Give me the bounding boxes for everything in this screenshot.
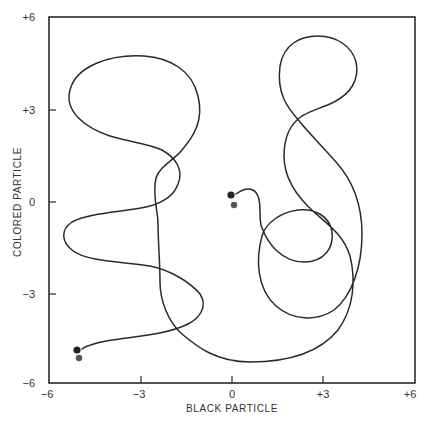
- chart-canvas: +6 +3 0 −3 −6 −6 −3 0 +3 +6 BLACK PARTIC…: [0, 0, 430, 424]
- y-label-minus3: −3: [22, 288, 35, 300]
- x-axis-ticks: [141, 376, 323, 383]
- y-label-minus6: −6: [22, 377, 35, 389]
- y-label-0: 0: [29, 196, 35, 208]
- x-label-minus6: −6: [41, 388, 54, 400]
- end-colored-particle-marker: [76, 355, 82, 361]
- start-black-particle-marker: [227, 191, 234, 198]
- x-label-plus3: +3: [317, 388, 330, 400]
- x-axis-title: BLACK PARTICLE: [186, 403, 278, 414]
- start-colored-particle-marker: [231, 202, 237, 208]
- end-black-particle-marker: [73, 346, 80, 353]
- x-label-plus6: +6: [404, 388, 417, 400]
- y-axis-ticks: [49, 110, 56, 294]
- trajectory-curve: [64, 36, 362, 362]
- x-label-0: 0: [229, 388, 235, 400]
- y-label-plus6: +6: [22, 11, 35, 23]
- y-label-plus3: +3: [22, 104, 35, 116]
- x-label-minus3: −3: [133, 388, 146, 400]
- plot-frame: [49, 17, 415, 383]
- y-axis-title: COLORED PARTICLE: [12, 147, 23, 257]
